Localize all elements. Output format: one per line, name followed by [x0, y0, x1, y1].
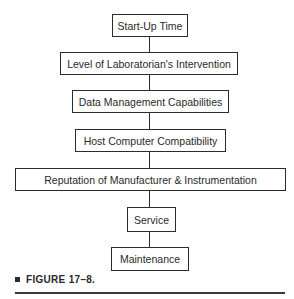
node-label: Level of Laboratorian's Intervention: [67, 58, 231, 70]
connector-line: [149, 191, 150, 207]
node-label: Data Management Capabilities: [79, 96, 223, 108]
connector-line: [149, 232, 150, 247]
node-reputation-of-manufacturer: Reputation of Manufacturer & Instrumenta…: [15, 168, 286, 191]
connector-line: [149, 152, 150, 168]
figure-caption: FIGURE 17–8.: [15, 274, 95, 285]
square-bullet-icon: [15, 277, 20, 282]
node-label: Service: [134, 214, 169, 226]
node-label: Host Computer Compatibility: [84, 135, 218, 147]
node-label: Maintenance: [120, 253, 180, 265]
caption-label: FIGURE 17–8.: [26, 274, 95, 285]
node-level-of-laboratorian-intervention: Level of Laboratorian's Intervention: [60, 52, 238, 75]
node-maintenance: Maintenance: [111, 247, 189, 271]
caption-divider: [15, 292, 285, 294]
node-data-management-capabilities: Data Management Capabilities: [72, 90, 229, 113]
connector-line: [149, 113, 150, 129]
node-label: Reputation of Manufacturer & Instrumenta…: [44, 174, 256, 186]
connector-line: [149, 75, 150, 90]
connector-line: [149, 37, 150, 52]
node-start-up-time: Start-Up Time: [112, 14, 188, 37]
node-label: Start-Up Time: [118, 20, 183, 32]
node-host-computer-compatibility: Host Computer Compatibility: [75, 129, 226, 152]
node-service: Service: [127, 207, 176, 232]
